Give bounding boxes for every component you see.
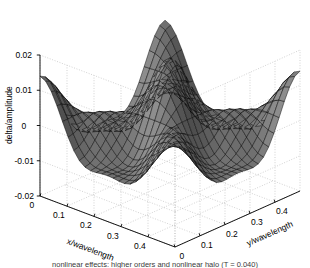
x-tick-3: 0.3 bbox=[107, 231, 119, 241]
z-tick-3: -0.01 bbox=[15, 156, 34, 166]
x-tick-1: 0.1 bbox=[53, 210, 65, 220]
y-tick-1: 0.1 bbox=[201, 240, 213, 250]
x-tick-4: 0.4 bbox=[134, 241, 146, 251]
figure-caption: nonlinear effects: higher orders and non… bbox=[0, 260, 310, 268]
mesh-surface bbox=[40, 20, 300, 184]
z-tick-2: 0 bbox=[22, 121, 27, 131]
y-tick-4: 0.4 bbox=[276, 206, 288, 216]
x-tick-2: 0.2 bbox=[80, 220, 92, 230]
y-tick-2: 0.2 bbox=[226, 229, 238, 239]
z-tick-0: 0.02 bbox=[16, 50, 33, 60]
y-tick-3: 0.3 bbox=[251, 217, 263, 227]
x-tick-0: 0 bbox=[30, 200, 35, 210]
surface-plot-canvas bbox=[0, 0, 310, 268]
z-tick-1: 0.01 bbox=[16, 85, 33, 95]
figure-3d-surface-plot: delta/amplitude 0.020.010-0.01-0.02 00.1… bbox=[0, 0, 310, 268]
